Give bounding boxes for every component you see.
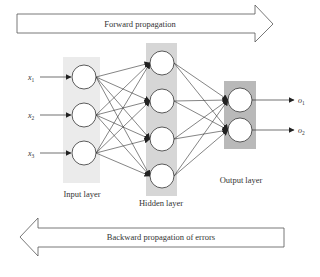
output-arrows xyxy=(252,100,294,130)
output-label-o2: o2 xyxy=(298,126,305,136)
output-node-1 xyxy=(228,88,252,112)
backward-propagation-label: Backward propagation of errors xyxy=(107,232,215,242)
input-node-1 xyxy=(72,65,96,89)
hidden-node-1 xyxy=(150,51,174,75)
input-node-3 xyxy=(72,141,96,165)
output-node-2 xyxy=(228,118,252,142)
output-label-o1: o1 xyxy=(298,96,305,106)
input-node-2 xyxy=(72,103,96,127)
hidden-layer-label: Hidden layer xyxy=(139,198,183,208)
input-label-x3: x3 xyxy=(27,149,35,159)
input-hidden-connections xyxy=(96,63,150,176)
hidden-node-3 xyxy=(150,127,174,151)
forward-propagation-label: Forward propagation xyxy=(104,19,176,29)
hidden-output-connections xyxy=(174,63,228,176)
neural-network-diagram: Forward propagation xyxy=(0,0,320,277)
hidden-node-2 xyxy=(150,89,174,113)
input-layer-label: Input layer xyxy=(63,189,100,199)
input-label-x2: x2 xyxy=(27,111,35,121)
input-label-x1: x1 xyxy=(27,73,35,83)
backward-propagation-arrow: Backward propagation of errors xyxy=(20,218,284,256)
hidden-node-4 xyxy=(150,164,174,188)
forward-propagation-arrow: Forward propagation xyxy=(17,5,273,42)
output-layer-label: Output layer xyxy=(220,175,263,185)
